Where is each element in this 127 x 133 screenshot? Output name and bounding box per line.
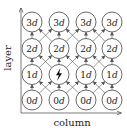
node-label: 3d [26, 18, 38, 28]
node: 3d [22, 12, 42, 32]
node: 3d [76, 12, 96, 32]
node: 3d [49, 12, 69, 32]
x-axis-label: column [53, 117, 91, 128]
node-label: 0d [53, 96, 65, 106]
y-axis-label: layer [2, 45, 13, 71]
edges-group [32, 29, 112, 93]
node: 2d [22, 39, 42, 59]
node: 1d [76, 65, 96, 85]
node-faulty [49, 65, 69, 85]
node-label: 2d [53, 44, 65, 54]
node: 2d [102, 39, 122, 59]
node-label: 2d [80, 44, 92, 54]
node-label: 3d [53, 18, 65, 28]
node: 0d [22, 90, 42, 110]
node-label: 3d [106, 18, 118, 28]
node: 0d [76, 90, 96, 110]
node-label: 0d [80, 96, 92, 106]
node: 0d [49, 90, 69, 110]
node-label: 1d [26, 70, 38, 80]
node-label: 3d [80, 18, 92, 28]
node-label: 0d [26, 96, 38, 106]
node: 1d [102, 65, 122, 85]
node-label: 1d [106, 70, 118, 80]
node-label: 2d [106, 44, 118, 54]
node: 2d [76, 39, 96, 59]
node: 0d [102, 90, 122, 110]
node-label: 2d [26, 44, 38, 54]
node: 2d [49, 39, 69, 59]
layer-column-diagram: 3d3d3d3d2d2d2d2d1d1d1d0d0d0d0d column la… [0, 0, 127, 133]
node: 1d [22, 65, 42, 85]
node: 3d [102, 12, 122, 32]
node-label: 1d [80, 70, 92, 80]
node-label: 0d [106, 96, 118, 106]
